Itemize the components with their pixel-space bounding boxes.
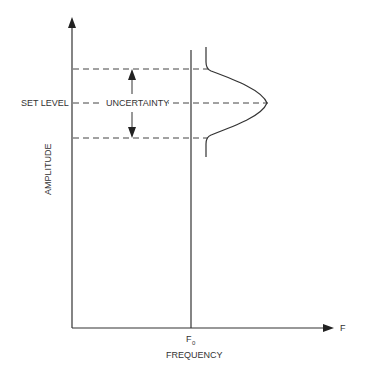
x-axis-arrowhead-icon	[323, 324, 334, 332]
amplitude-uncertainty-diagram: SET LEVEL UNCERTAINTY AMPLITUDE F F 0 FR…	[0, 0, 365, 374]
arrow-down-icon	[128, 127, 136, 138]
uncertainty-label: UNCERTAINTY	[106, 98, 169, 108]
y-axis-arrowhead-icon	[68, 17, 76, 28]
distribution-curve	[206, 47, 267, 157]
y-axis-label: AMPLITUDE	[43, 143, 53, 195]
x-axis-end-label: F	[340, 323, 346, 333]
arrow-up-icon	[128, 69, 136, 80]
set-level-label: SET LEVEL	[21, 98, 69, 108]
x-axis-label: FREQUENCY	[166, 350, 223, 360]
f0-subscript: 0	[192, 340, 196, 346]
